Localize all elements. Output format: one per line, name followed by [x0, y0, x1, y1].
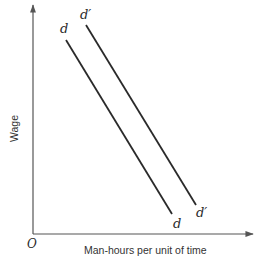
- demand-curve-d-prime: [86, 25, 196, 205]
- demand-curve-d: [66, 40, 172, 214]
- diagram-canvas: d d′ d d′ O Man-hours per unit of time W…: [0, 0, 268, 270]
- curve-d-label-top: d: [60, 21, 68, 36]
- origin-label: O: [27, 237, 37, 251]
- y-axis-label: Wage: [8, 115, 20, 142]
- curve-d-prime-label-top: d′: [80, 7, 91, 22]
- curve-d-prime-label-bottom: d′: [196, 205, 207, 220]
- x-axis-label: Man-hours per unit of time: [84, 244, 207, 256]
- curve-d-label-bottom: d: [173, 216, 181, 231]
